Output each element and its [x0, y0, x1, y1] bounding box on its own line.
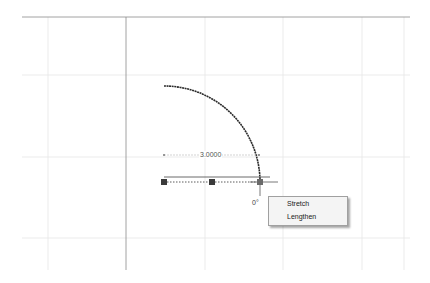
dimension-label: 3.0000 — [199, 151, 222, 158]
angle-label: 0° — [252, 199, 259, 206]
drawing-canvas[interactable] — [0, 0, 430, 283]
mid-grip[interactable] — [209, 179, 215, 185]
start-grip[interactable] — [161, 179, 167, 185]
grip-context-menu: Stretch Lengthen — [268, 196, 348, 226]
end-grip[interactable] — [257, 179, 263, 185]
arc[interactable] — [164, 86, 260, 182]
menu-item-stretch[interactable]: Stretch — [269, 197, 347, 210]
grid-lines — [22, 17, 410, 270]
menu-item-lengthen[interactable]: Lengthen — [269, 210, 347, 223]
